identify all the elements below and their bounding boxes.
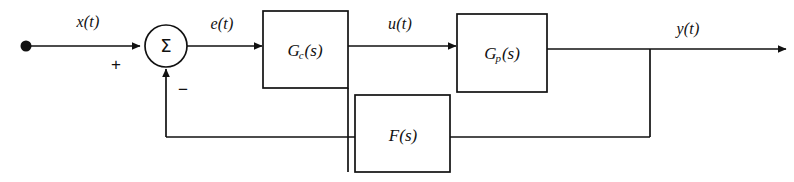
feedback-block-label: F(s) xyxy=(389,127,417,144)
signal-label-output: y(t) xyxy=(676,21,699,37)
plant-label-arg: (s) xyxy=(502,44,520,63)
feedback-label-arg: (s) xyxy=(399,126,417,145)
plant-label-sub: p xyxy=(495,52,501,64)
controller-block-label: Gc(s) xyxy=(287,42,322,59)
controller-label-sub: c xyxy=(299,49,304,61)
plant-block-label: Gp(s) xyxy=(484,45,520,62)
feedback-label-main: F xyxy=(389,126,399,145)
summing-junction-symbol: Σ xyxy=(160,37,171,55)
minus-sign-label: − xyxy=(178,81,188,98)
controller-label-arg: (s) xyxy=(305,41,323,60)
signal-label-error: e(t) xyxy=(210,16,233,32)
signal-label-input: x(t) xyxy=(76,14,99,30)
signal-label-control: u(t) xyxy=(388,16,412,32)
block-diagram: Σ + − x(t) e(t) u(t) y(t) Gc(s) Gp(s) F(… xyxy=(0,0,794,182)
plus-sign-label: + xyxy=(111,56,121,73)
